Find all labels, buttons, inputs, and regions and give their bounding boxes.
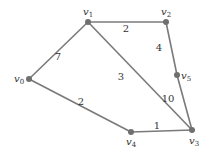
- edges: [29, 22, 192, 132]
- edge-v4-v3: [131, 130, 192, 132]
- node-v2: [163, 19, 169, 25]
- node-label-v4: v4: [126, 136, 137, 149]
- node-v1: [85, 19, 91, 25]
- edge-weight-v5-v3: 10: [162, 93, 175, 104]
- edge-weight-v0-v1: 7: [55, 51, 61, 62]
- edge-weight-v1-v2: 2: [123, 23, 129, 34]
- edge-weights: 72341021: [55, 23, 175, 131]
- node-v3: [189, 127, 195, 133]
- node-v5: [174, 72, 180, 78]
- node-label-v0: v0: [14, 73, 24, 86]
- edge-weight-v4-v3: 1: [154, 120, 160, 131]
- node-v4: [128, 129, 134, 135]
- node-label-v1: v1: [83, 6, 93, 19]
- node-label-v2: v2: [161, 6, 171, 19]
- edge-weight-v2-v5: 4: [156, 42, 162, 53]
- edge-weight-v1-v3: 3: [118, 71, 124, 82]
- node-label-v3: v3: [189, 135, 199, 148]
- edge-weight-v0-v4: 2: [78, 96, 84, 107]
- node-v0: [26, 76, 32, 82]
- edge-v2-v5: [166, 22, 177, 75]
- node-label-v5: v5: [181, 70, 191, 83]
- graph-diagram: 72341021 v0v1v2v3v4v5: [0, 0, 208, 154]
- node-labels: v0v1v2v3v4v5: [14, 6, 199, 149]
